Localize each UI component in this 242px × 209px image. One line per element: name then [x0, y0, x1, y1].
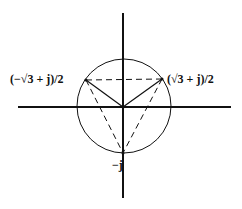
spoke-to-left-root	[86, 80, 123, 107]
label-bottom-root: −j	[112, 158, 123, 172]
complex-plane-diagram: (−√3 + j)/2 (√3 + j)/2 −j	[0, 0, 242, 209]
label-right-root: (√3 + j)/2	[167, 72, 214, 86]
dashed-edge-right-bottom	[123, 79, 162, 153]
root-point-bottom	[122, 152, 125, 155]
root-point-right	[161, 78, 164, 81]
spoke-to-right-root	[123, 79, 162, 107]
label-left-root: (−√3 + j)/2	[10, 72, 64, 86]
origin-point	[122, 106, 125, 109]
root-point-left	[85, 79, 88, 82]
dashed-edge-left-bottom	[86, 80, 123, 153]
